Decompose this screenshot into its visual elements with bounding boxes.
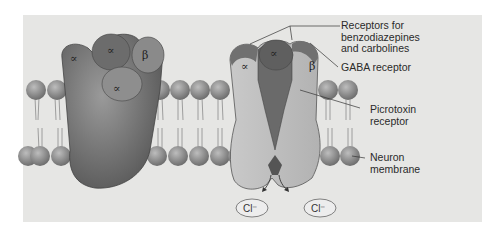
svg-text:∝: ∝ — [241, 60, 248, 73]
svg-text:∝: ∝ — [70, 52, 77, 65]
svg-text:Cl⁻: Cl⁻ — [311, 203, 325, 214]
svg-text:∝: ∝ — [270, 47, 277, 60]
receptor-complex-right: ∝ ∝ β — [230, 40, 320, 192]
label-neuron-membrane: Neuron membrane — [370, 152, 420, 175]
svg-text:∝: ∝ — [113, 82, 120, 95]
svg-text:β: β — [309, 60, 315, 73]
svg-text:∝: ∝ — [107, 44, 114, 57]
receptor-complex-left: ∝ ∝ β ∝ — [62, 34, 164, 188]
svg-text:Cl⁻: Cl⁻ — [243, 203, 257, 214]
label-gaba-receptor: GABA receptor — [341, 62, 411, 74]
chloride-ion-right: Cl⁻ — [304, 199, 336, 217]
svg-text:β: β — [142, 49, 148, 62]
gaba-receptor-diagram: ∝ ∝ β ∝ ∝ ∝ β Cl⁻ Cl⁻ — [0, 0, 495, 233]
chloride-ion-left: Cl⁻ — [236, 199, 268, 217]
label-picrotoxin-receptor: Picrotoxin receptor — [370, 104, 416, 127]
label-benzodiazepine-receptors: Receptors for benzodiazepines and carbol… — [341, 20, 420, 55]
